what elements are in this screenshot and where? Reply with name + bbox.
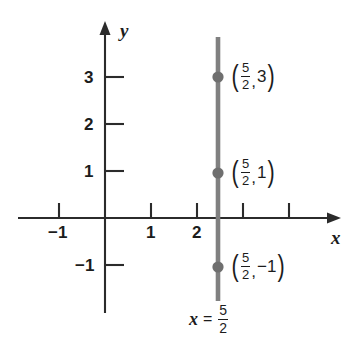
- close-paren: ): [268, 160, 275, 185]
- x-tick-label-2: 2: [192, 224, 201, 241]
- y-tick-label-2: 2: [84, 116, 93, 133]
- x-tick-label-neg1: −1: [48, 224, 67, 241]
- point-label-five-halves-neg1: ( 5 2 , −1 ): [230, 251, 286, 282]
- fraction-numerator: 5: [218, 303, 228, 318]
- y-axis-label: y: [120, 21, 128, 40]
- data-point: [212, 71, 223, 82]
- fraction-denominator: 2: [241, 268, 250, 282]
- coordinate-plane-figure: y x −1 1 2 3 2 1 −1 ( 5 2 , 3 ) ( 5 2 , …: [0, 0, 358, 340]
- point-label-five-halves-3: ( 5 2 , 3 ): [230, 61, 276, 92]
- point-label-five-halves-1: ( 5 2 , 1 ): [230, 157, 276, 188]
- x-axis-label: x: [331, 228, 341, 247]
- fraction-denominator: 2: [241, 78, 250, 92]
- equation-equals-sign: =: [203, 311, 212, 327]
- data-point: [212, 261, 223, 272]
- y-coordinate-value: 1: [257, 164, 266, 181]
- open-paren: (: [231, 64, 238, 89]
- comma-separator: ,: [251, 263, 256, 282]
- fraction-denominator: 2: [241, 174, 250, 188]
- graph-canvas: [0, 0, 358, 340]
- comma-separator: ,: [251, 73, 256, 92]
- fraction-numerator: 5: [241, 157, 250, 171]
- data-point: [212, 167, 223, 178]
- y-tick-label-1: 1: [84, 163, 93, 180]
- comma-separator: ,: [251, 169, 256, 188]
- fraction-five-halves: 5 2: [241, 157, 250, 188]
- close-paren: ): [278, 254, 285, 279]
- close-paren: ): [268, 64, 275, 89]
- y-tick-label-neg1: −1: [75, 257, 94, 274]
- equation-label: x = 5 2: [189, 303, 229, 336]
- y-coordinate-value: −1: [257, 258, 276, 275]
- open-paren: (: [231, 160, 238, 185]
- fraction-numerator: 5: [241, 61, 250, 75]
- fraction-five-halves: 5 2: [241, 251, 250, 282]
- x-tick-label-1: 1: [146, 224, 155, 241]
- equation-fraction-five-halves: 5 2: [218, 303, 228, 336]
- fraction-denominator: 2: [218, 321, 228, 336]
- y-axis-arrowhead: [100, 21, 111, 35]
- equation-variable: x: [189, 310, 198, 328]
- fraction-numerator: 5: [241, 251, 250, 265]
- y-tick-label-3: 3: [84, 69, 93, 86]
- fraction-five-halves: 5 2: [241, 61, 250, 92]
- y-coordinate-value: 3: [257, 68, 266, 85]
- x-axis-arrowhead: [327, 213, 341, 224]
- open-paren: (: [231, 254, 238, 279]
